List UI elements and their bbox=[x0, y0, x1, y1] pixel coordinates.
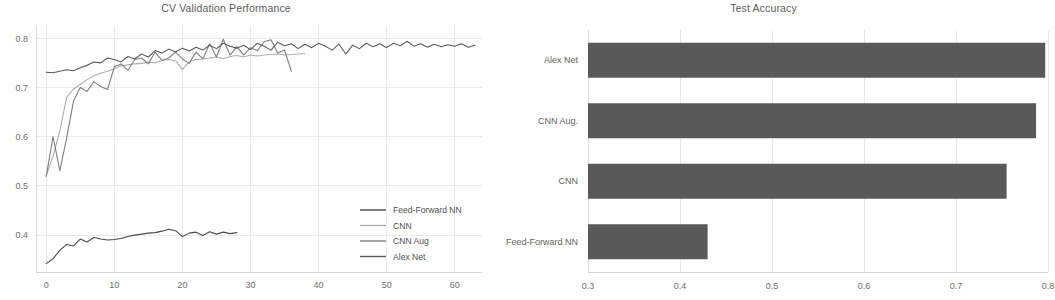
legend-label-1: CNN bbox=[393, 221, 412, 231]
y-axis-tick-label: 0.5 bbox=[15, 181, 28, 191]
x-axis-tick-label: 0.3 bbox=[582, 281, 595, 291]
chart-legend: Feed-Forward NNCNNCNN AugAlex Net bbox=[360, 205, 462, 262]
test-accuracy-panel: Test Accuracy Alex NetCNN Aug.CNNFeed-Fo… bbox=[500, 0, 1055, 300]
x-axis-tick-label: 20 bbox=[177, 280, 187, 290]
x-axis-tick-label: 40 bbox=[314, 280, 324, 290]
figure-root: CV Validation Performance 01020304050600… bbox=[0, 0, 1055, 300]
x-axis-tick-label: 10 bbox=[109, 280, 119, 290]
line-series-cnn bbox=[46, 54, 305, 176]
bar-category-label-3: Feed-Forward NN bbox=[506, 237, 578, 247]
line-chart-canvas: 01020304050600.40.50.60.70.8Feed-Forward… bbox=[0, 0, 500, 300]
x-axis-tick-label: 50 bbox=[382, 280, 392, 290]
x-axis-tick-label: 0 bbox=[44, 280, 49, 290]
y-axis-tick-label: 0.7 bbox=[15, 83, 28, 93]
legend-label-0: Feed-Forward NN bbox=[393, 205, 462, 215]
x-axis-tick-label: 0.8 bbox=[1042, 281, 1055, 291]
x-axis-tick-label: 60 bbox=[450, 280, 460, 290]
table-row bbox=[588, 43, 1045, 78]
y-axis-tick-label: 0.4 bbox=[15, 230, 28, 240]
bar-chart-canvas: Alex NetCNN Aug.CNNFeed-Forward NN0.30.4… bbox=[500, 0, 1055, 300]
x-axis-tick-label: 0.6 bbox=[858, 281, 871, 291]
line-series-feed-forward-nn bbox=[46, 229, 237, 263]
bar-category-label-0: Alex Net bbox=[544, 55, 579, 65]
table-row bbox=[588, 224, 708, 259]
table-row bbox=[588, 164, 1007, 199]
table-row bbox=[588, 103, 1036, 138]
x-axis-tick-label: 0.7 bbox=[950, 281, 963, 291]
bar-category-label-2: CNN bbox=[559, 176, 579, 186]
x-axis-tick-label: 30 bbox=[245, 280, 255, 290]
cv-validation-performance-panel: CV Validation Performance 01020304050600… bbox=[0, 0, 500, 300]
bar-category-label-1: CNN Aug. bbox=[538, 116, 578, 126]
legend-label-2: CNN Aug bbox=[393, 236, 429, 246]
x-axis-tick-label: 0.4 bbox=[674, 281, 687, 291]
x-axis-tick-label: 0.5 bbox=[766, 281, 779, 291]
legend-label-3: Alex Net bbox=[393, 252, 426, 262]
y-axis-tick-label: 0.8 bbox=[15, 34, 28, 44]
y-axis-tick-label: 0.6 bbox=[15, 132, 28, 142]
